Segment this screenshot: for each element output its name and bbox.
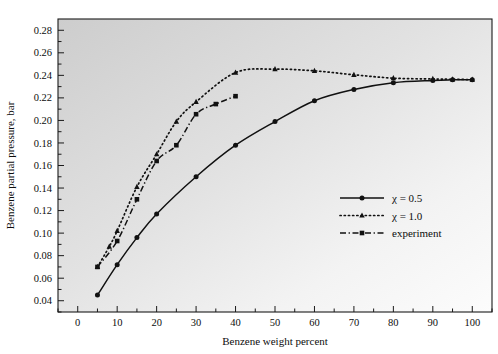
- legend-label: χ = 1.0: [391, 210, 423, 222]
- x-tick-label: 100: [464, 317, 480, 328]
- x-tick-label: 40: [230, 317, 241, 328]
- x-tick-label: 50: [270, 317, 281, 328]
- y-tick-label: 0.12: [34, 205, 52, 216]
- data-point-marker: [134, 235, 139, 240]
- y-tick-label: 0.06: [34, 273, 52, 284]
- x-tick-label: 0: [75, 317, 80, 328]
- y-tick-label: 0.22: [34, 92, 52, 103]
- chart-canvas: 0102030405060708090100 0.040.060.080.100…: [0, 0, 498, 354]
- data-point-marker: [214, 102, 219, 107]
- x-tick-label: 30: [191, 317, 202, 328]
- data-point-marker: [154, 159, 159, 164]
- data-point-marker: [115, 262, 120, 267]
- y-tick-label: 0.18: [34, 138, 52, 149]
- x-tick-label: 20: [151, 317, 162, 328]
- data-point-marker: [351, 87, 356, 92]
- legend-label: experiment: [392, 227, 441, 239]
- data-point-marker: [233, 143, 238, 148]
- y-axis-title: Benzene partial pressure, bar: [4, 101, 16, 229]
- y-tick-label: 0.16: [34, 160, 52, 171]
- x-tick-label: 10: [112, 317, 123, 328]
- data-point-marker: [194, 174, 199, 179]
- data-point-marker: [95, 293, 100, 298]
- x-tick-label: 90: [428, 317, 439, 328]
- data-point-marker: [174, 143, 179, 148]
- legend-marker-sample: [360, 196, 365, 201]
- plot-area-background: [58, 19, 492, 312]
- legend-marker-sample: [360, 231, 365, 236]
- x-axis-title: Benzene weight percent: [222, 335, 328, 347]
- y-tick-label: 0.08: [34, 250, 52, 261]
- y-tick-label: 0.24: [34, 70, 53, 81]
- data-point-marker: [194, 112, 199, 117]
- data-point-marker: [391, 80, 396, 85]
- data-point-marker: [95, 265, 100, 270]
- data-point-marker: [154, 211, 159, 216]
- benzene-partial-pressure-chart: 0102030405060708090100 0.040.060.080.100…: [0, 0, 498, 354]
- y-tick-label: 0.04: [34, 295, 53, 306]
- x-tick-label: 60: [309, 317, 320, 328]
- y-tick-label: 0.26: [34, 47, 52, 58]
- y-tick-label: 0.28: [34, 25, 52, 36]
- legend-label: χ = 0.5: [391, 192, 423, 204]
- y-tick-label: 0.14: [34, 183, 53, 194]
- data-point-marker: [135, 197, 140, 202]
- x-tick-label: 80: [388, 317, 399, 328]
- data-point-marker: [273, 119, 278, 124]
- y-tick-label: 0.20: [34, 115, 52, 126]
- y-tick-label: 0.10: [34, 228, 52, 239]
- data-point-marker: [233, 94, 238, 99]
- data-point-marker: [312, 98, 317, 103]
- x-tick-label: 70: [349, 317, 360, 328]
- data-point-marker: [115, 239, 120, 244]
